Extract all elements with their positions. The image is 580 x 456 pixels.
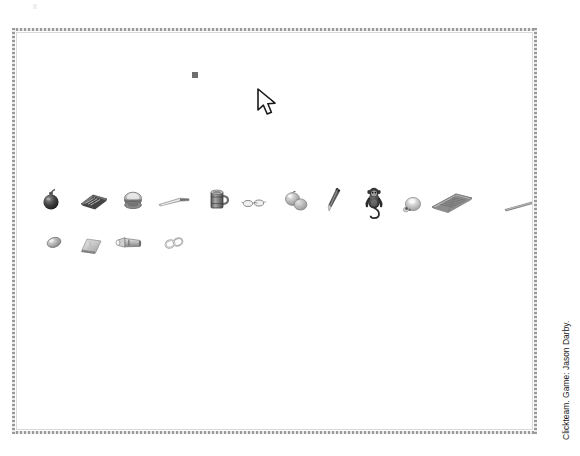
top-artifact	[33, 4, 37, 9]
game-screenshot: Clickteam. Game: Jason Darby.	[0, 0, 580, 456]
frame-border-top	[12, 28, 537, 31]
frame-border-left	[12, 28, 15, 434]
game-object-pen[interactable]	[326, 187, 342, 215]
mouse-pointer-icon[interactable]	[256, 88, 282, 122]
frame-border-right	[534, 28, 537, 434]
credit-area: Clickteam. Game: Jason Darby.	[564, 320, 578, 440]
game-object-newspaper[interactable]	[430, 192, 474, 214]
game-object-book[interactable]	[79, 192, 109, 210]
game-playfield[interactable]	[17, 33, 532, 429]
game-object-fruit[interactable]	[282, 190, 310, 212]
frame-border-bottom	[12, 431, 537, 434]
game-object-rings[interactable]	[163, 236, 185, 250]
game-object-skull[interactable]	[401, 196, 423, 214]
game-object-hat[interactable]	[120, 190, 146, 212]
game-object-stone[interactable]	[45, 235, 63, 249]
selection-square[interactable]	[191, 71, 199, 79]
credit-text: Clickteam. Game: Jason Darby.	[561, 321, 571, 440]
game-object-flashlight[interactable]	[114, 235, 144, 251]
game-object-cloth[interactable]	[79, 235, 105, 255]
game-object-knife[interactable]	[158, 195, 192, 209]
game-object-glasses[interactable]	[241, 197, 267, 209]
game-object-bomb[interactable]	[40, 188, 62, 212]
game-object-monkey[interactable]	[362, 186, 386, 220]
game-object-mug[interactable]	[208, 188, 230, 212]
game-object-stick[interactable]	[504, 200, 532, 212]
game-window-frame	[12, 28, 537, 434]
